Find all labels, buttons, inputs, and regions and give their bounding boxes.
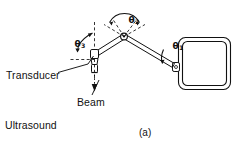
theta3-subscript: 3	[81, 42, 85, 49]
theta2-symbol: θ	[129, 15, 135, 25]
lower-arm-link	[96, 35, 125, 57]
theta1-symbol: θ	[173, 41, 179, 51]
theta3-symbol: θ	[75, 39, 81, 49]
label-theta1: θ1	[160, 32, 183, 61]
theta2-subscript: 2	[135, 18, 139, 25]
theta1-subscript: 1	[179, 44, 183, 51]
figure-caption: (a)	[139, 128, 151, 139]
display-unit	[179, 38, 231, 90]
display-pivot-joint	[173, 63, 180, 72]
label-beam: Beam	[77, 97, 105, 108]
label-theta3: θ3	[62, 30, 85, 59]
label-theta2: θ2	[116, 6, 139, 35]
articulated-arm-scanner-figure: Transducer Ultrasound Direction Beam θ1 …	[0, 0, 237, 153]
label-transducer: Transducer	[6, 70, 60, 81]
label-ultrasound-line1: Ultrasound	[5, 120, 57, 131]
label-ultrasound-direction: Ultrasound Direction	[5, 97, 57, 153]
